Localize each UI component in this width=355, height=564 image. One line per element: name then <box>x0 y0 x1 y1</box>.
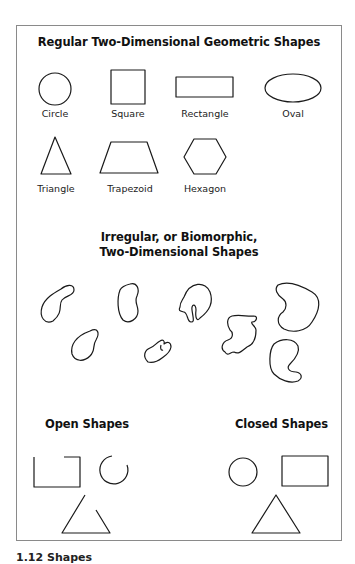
biomorphic-shape-8 <box>270 340 301 382</box>
hexagon-shape <box>184 139 226 174</box>
open-circle-shape <box>100 456 128 484</box>
oval-shape <box>265 74 321 102</box>
biomorphic-shape-5 <box>179 284 211 322</box>
trapezoid-shape <box>100 142 158 173</box>
biomorphic-shape-2 <box>118 284 138 322</box>
open-square-shape <box>34 457 80 487</box>
biomorphic-shape-6 <box>222 315 256 354</box>
biomorphic-shape-4 <box>145 340 171 362</box>
closed-circle-shape <box>229 458 257 486</box>
biomorphic-shape-1 <box>41 285 74 322</box>
open-triangle-shape-left <box>62 495 110 533</box>
circle-shape <box>39 73 71 105</box>
biomorphic-shape-7 <box>276 283 319 331</box>
square-shape <box>111 70 145 104</box>
figure-caption: 1.12 Shapes <box>16 551 92 564</box>
closed-rectangle-shape <box>282 456 328 486</box>
triangle-shape <box>41 137 71 174</box>
closed-triangle-shape <box>252 495 300 533</box>
biomorphic-shape-3 <box>72 330 98 361</box>
rectangle-shape <box>176 77 233 97</box>
